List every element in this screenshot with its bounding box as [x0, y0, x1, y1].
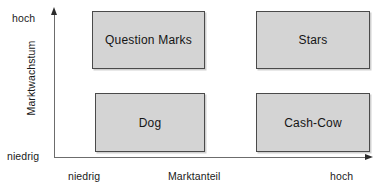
bcg-matrix-diagram: hoch niedrig Marktwachstum niedrig Markt…: [0, 0, 379, 191]
quadrant-dog[interactable]: Dog: [95, 93, 205, 152]
x-axis-low-label: niedrig: [68, 170, 100, 182]
quadrant-stars[interactable]: Stars: [256, 11, 370, 69]
quadrant-label: Cash-Cow: [284, 116, 342, 130]
y-axis-arrow-icon: [51, 7, 57, 15]
quadrant-question-marks[interactable]: Question Marks: [92, 11, 205, 69]
quadrant-label: Dog: [139, 116, 162, 130]
x-axis-arrow-icon: [365, 154, 373, 160]
y-axis-low-label: niedrig: [7, 150, 39, 162]
x-axis-line: [54, 157, 366, 158]
x-axis-high-label: hoch: [330, 170, 353, 182]
quadrant-label: Stars: [298, 33, 327, 47]
x-axis-title: Marktanteil: [168, 170, 220, 182]
quadrant-label: Question Marks: [105, 33, 192, 47]
quadrant-cash-cow[interactable]: Cash-Cow: [256, 93, 370, 152]
y-axis-title: Marktwachstum: [25, 23, 37, 133]
y-axis-line: [54, 14, 55, 157]
